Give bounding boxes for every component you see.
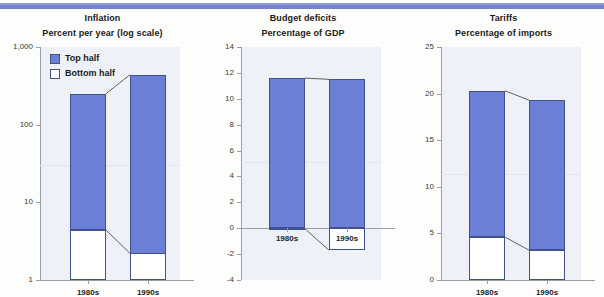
y-tick-label: 15	[401, 135, 434, 144]
plot-area: -4-2024681012141980s1990s	[241, 47, 381, 280]
y-tick-label: 0	[201, 223, 234, 232]
plot-area: 1101001,0001980s1990s	[40, 47, 180, 280]
legend-label: Top half	[65, 53, 99, 63]
panel-subtitle: Percent per year (log scale)	[0, 28, 205, 38]
y-tick-label: 5	[401, 228, 434, 237]
y-tick-label: 100	[0, 120, 33, 129]
bar-connector-lines	[241, 47, 381, 297]
chart-panel-tariffs: TariffsPercentage of imports051015202519…	[403, 9, 604, 297]
y-tick-label: 0	[401, 275, 434, 284]
chart-panel-inflation: InflationPercent per year (log scale)110…	[0, 9, 205, 297]
legend-label: Bottom half	[65, 68, 115, 78]
panel-subtitle: Percentage of imports	[403, 28, 604, 38]
panel-subtitle: Percentage of GDP	[203, 28, 403, 38]
plot-area: 05101520251980s1990s	[441, 47, 581, 280]
bar-connector-lines	[441, 47, 581, 297]
panel-title: Tariffs	[403, 13, 604, 23]
y-tick-label: -4	[201, 275, 234, 284]
y-tick-label: 6	[201, 146, 234, 155]
y-tick-label: 1,000	[0, 42, 33, 51]
y-tick-label: 1	[0, 275, 33, 284]
legend-swatch-white	[50, 69, 60, 79]
y-tick-label: 2	[201, 197, 234, 206]
y-tick-label: 10	[401, 182, 434, 191]
charts-container: InflationPercent per year (log scale)110…	[0, 9, 604, 297]
y-tick-label: 10	[0, 197, 33, 206]
y-tick-label: 20	[401, 89, 434, 98]
y-tick-label: 8	[201, 120, 234, 129]
bar-connector-lines	[40, 47, 180, 297]
y-tick-label: -2	[201, 249, 234, 258]
panel-title: Budget deficits	[203, 13, 403, 23]
y-tick-label: 12	[201, 68, 234, 77]
legend-swatch-blue	[50, 54, 60, 64]
y-tick-label: 14	[201, 42, 234, 51]
y-tick-label: 25	[401, 42, 434, 51]
y-tick-label: 10	[201, 94, 234, 103]
y-tick-label: 4	[201, 171, 234, 180]
panel-title: Inflation	[0, 13, 205, 23]
chart-panel-budget-deficits: Budget deficitsPercentage of GDP-4-20246…	[203, 9, 403, 297]
